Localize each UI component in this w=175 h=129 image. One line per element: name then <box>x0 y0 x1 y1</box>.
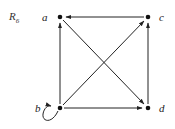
node-b <box>58 106 63 111</box>
edge-b-to-c <box>63 21 144 105</box>
node-label-c: c <box>159 11 164 23</box>
node-d <box>146 106 151 111</box>
directed-graph-diagram: R6 a c b d <box>0 0 175 129</box>
node-label-d: d <box>159 102 165 114</box>
self-loop-b <box>43 106 58 121</box>
relation-title-subscript: 6 <box>16 17 20 25</box>
node-c <box>146 15 151 20</box>
edge-a-to-d <box>63 20 144 104</box>
node-a <box>58 15 63 20</box>
relation-title: R6 <box>8 10 20 25</box>
node-label-b: b <box>35 102 41 114</box>
node-label-a: a <box>42 11 48 23</box>
